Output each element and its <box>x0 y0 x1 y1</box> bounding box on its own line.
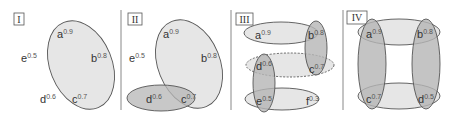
hypergraph-figure: I a0.9 b0.8 c0.7 d0.6 e0.5 II a0.9 b0.8 <box>0 0 460 123</box>
svg-text:e0.5: e0.5 <box>129 52 145 64</box>
svg-text:e0.5: e0.5 <box>21 52 37 64</box>
hyperedge-abc <box>35 11 127 120</box>
vertex-d: d0.6 <box>40 93 56 105</box>
vertex-e: e0.5 <box>21 52 37 64</box>
svg-text:d0.6: d0.6 <box>40 93 56 105</box>
panel-tag: II <box>132 14 139 25</box>
panel-IV: IV a0.9 b0.8 c0.7 d0.5 <box>347 11 440 109</box>
panel-tag: III <box>240 14 250 25</box>
vertex-e: e0.5 <box>129 52 145 64</box>
panel-II: II a0.9 b0.8 c0.7 d0.6 e0.5 <box>127 10 235 119</box>
panel-tag: I <box>17 14 20 25</box>
panel-III: III a0.9 b0.8 c0.7 d0.6 e0.5 f0.3 <box>236 13 334 112</box>
panel-I: I a0.9 b0.8 c0.7 d0.6 e0.5 <box>14 11 127 120</box>
panel-tag: IV <box>352 12 363 23</box>
